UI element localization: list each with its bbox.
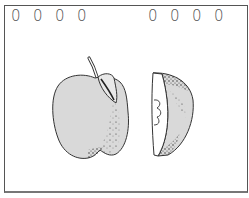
apple-illustration	[0, 0, 249, 198]
whole-apple-icon	[53, 58, 129, 158]
apple-slice-icon	[152, 73, 193, 156]
